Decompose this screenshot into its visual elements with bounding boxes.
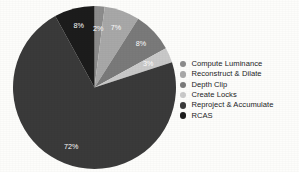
legend-marker-icon bbox=[180, 82, 186, 88]
chart-legend: Compute Luminance Reconstruct & Dilate D… bbox=[180, 59, 298, 121]
legend-item-label: Create Locks bbox=[191, 90, 236, 100]
pie-slice-value-label: 3% bbox=[143, 59, 154, 68]
legend-marker-icon bbox=[180, 102, 186, 108]
legend-item-label: Depth Clip bbox=[191, 80, 227, 90]
legend-item-label: RCAS bbox=[191, 111, 212, 121]
legend-item-depth-clip[interactable]: Depth Clip bbox=[180, 80, 298, 90]
legend-item-compute-luminance[interactable]: Compute Luminance bbox=[180, 59, 298, 69]
legend-marker-icon bbox=[180, 61, 186, 67]
legend-marker-icon bbox=[180, 112, 186, 118]
legend-item-reconstruct-and-dilate[interactable]: Reconstruct & Dilate bbox=[180, 69, 298, 79]
pie-slice-value-label: 8% bbox=[136, 39, 147, 48]
pie-slice-value-label: 8% bbox=[73, 21, 84, 30]
legend-marker-icon bbox=[180, 92, 186, 98]
legend-item-rcas[interactable]: RCAS bbox=[180, 110, 298, 120]
pie-slice-value-label: 2% bbox=[93, 24, 104, 33]
legend-item-reproject-and-accumulate[interactable]: Reproject & Accumulate bbox=[180, 100, 298, 110]
pie-chart-plot-area: 2%7%8%3%72%8% bbox=[12, 5, 177, 170]
legend-marker-icon bbox=[180, 71, 186, 77]
pie-slice-value-label: 72% bbox=[64, 142, 79, 151]
pie-chart-svg: 2%7%8%3%72%8% bbox=[12, 5, 177, 170]
legend-item-label: Reproject & Accumulate bbox=[191, 100, 273, 110]
legend-item-create-locks[interactable]: Create Locks bbox=[180, 90, 298, 100]
pie-slice-value-label: 7% bbox=[111, 23, 122, 32]
legend-item-label: Reconstruct & Dilate bbox=[191, 69, 261, 79]
pie-chart-figure: 2%7%8%3%72%8% Compute Luminance Reconstr… bbox=[0, 0, 299, 172]
legend-item-label: Compute Luminance bbox=[191, 59, 262, 69]
